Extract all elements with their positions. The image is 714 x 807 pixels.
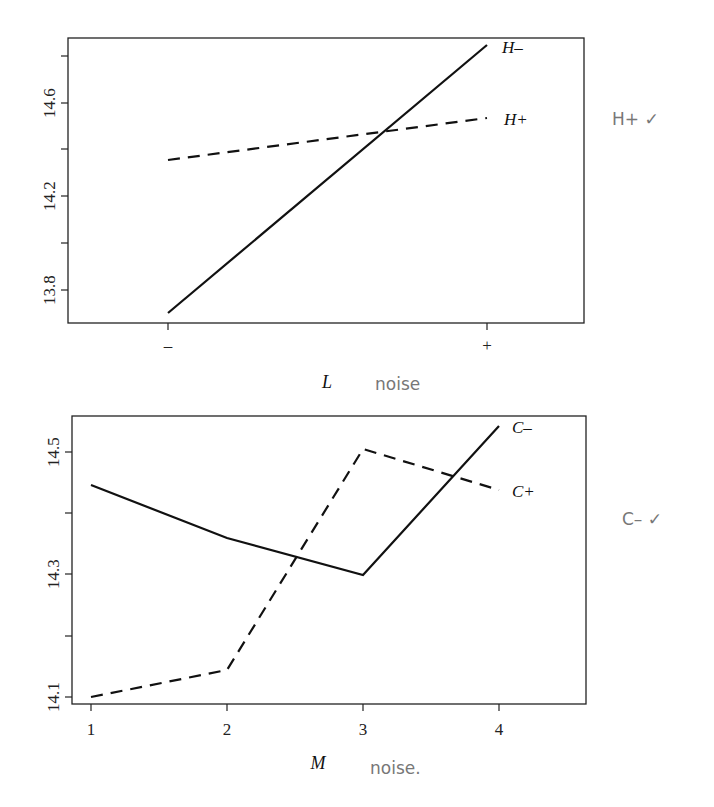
- bottom-x-axis-title: M: [310, 753, 327, 773]
- series-c-plus-label: C+: [512, 482, 535, 501]
- bottom-ytick-14-1: 14.1: [44, 682, 63, 712]
- top-ytick-14-6: 14.6: [40, 88, 59, 118]
- top-xtick-plus: +: [482, 336, 492, 355]
- series-c-minus-line: [91, 426, 499, 575]
- series-h-plus-line: [168, 118, 487, 160]
- top-handwritten-noise-note: noise: [375, 374, 420, 394]
- top-x-ticks: [168, 323, 487, 330]
- bottom-xtick-1: 1: [87, 720, 96, 739]
- top-ytick-13-8: 13.8: [40, 275, 59, 305]
- figure-canvas: 13.8 14.2 14.6 – + L H– H+ noise H+ ✓ 14…: [0, 0, 714, 807]
- top-x-axis-title: L: [321, 372, 332, 392]
- bottom-xtick-3: 3: [359, 720, 368, 739]
- bottom-x-ticks: [91, 704, 499, 711]
- top-xtick-minus: –: [163, 336, 173, 355]
- bottom-xtick-2: 2: [223, 720, 232, 739]
- series-h-minus-line: [168, 45, 487, 313]
- bottom-handwritten-side-note: C– ✓: [622, 509, 662, 529]
- bottom-xtick-4: 4: [495, 720, 504, 739]
- series-c-minus-label: C–: [512, 418, 532, 437]
- bottom-chart: 14.1 14.3 14.5 1 2 3 4 M C– C+ noise. C–…: [44, 416, 662, 778]
- bottom-ytick-14-5: 14.5: [44, 437, 63, 467]
- top-ytick-14-2: 14.2: [40, 181, 59, 211]
- series-c-plus-line: [91, 449, 499, 697]
- series-h-plus-label: H+: [503, 110, 528, 129]
- top-handwritten-side-note: H+ ✓: [612, 109, 659, 129]
- top-y-ticks: [61, 56, 68, 290]
- bottom-ytick-14-3: 14.3: [44, 559, 63, 589]
- top-chart: 13.8 14.2 14.6 – + L H– H+ noise H+ ✓: [40, 38, 659, 394]
- series-h-minus-label: H–: [501, 38, 523, 57]
- bottom-plot-frame: [72, 416, 586, 704]
- bottom-handwritten-noise-note: noise.: [370, 758, 421, 778]
- bottom-y-ticks: [65, 452, 72, 697]
